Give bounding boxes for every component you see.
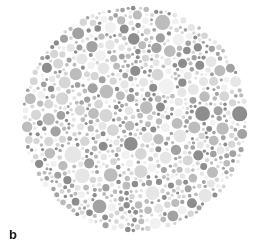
ishihara-figure: b (0, 0, 273, 252)
ishihara-plate-canvas (0, 0, 273, 252)
panel-label: b (9, 228, 17, 242)
